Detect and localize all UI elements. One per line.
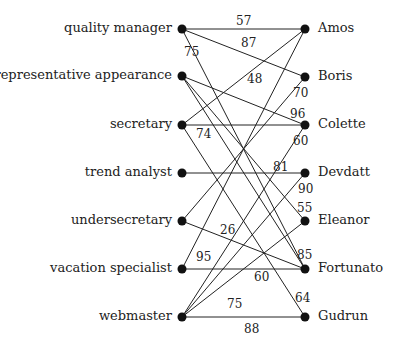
left-node-label: representative appearance — [0, 67, 172, 83]
node-R3 — [301, 169, 310, 178]
left-node-label: trend analyst — [85, 164, 172, 180]
edge-weight: 57 — [236, 14, 251, 28]
left-node-label: webmaster — [99, 308, 172, 324]
node-R4 — [301, 217, 310, 226]
node-R2 — [301, 121, 310, 130]
node-R1 — [301, 73, 310, 82]
edge-weight: 90 — [298, 182, 313, 196]
edge-weight: 81 — [273, 160, 288, 174]
right-node-label: Eleanor — [318, 212, 370, 228]
right-node-label: Colette — [318, 116, 366, 132]
node-L4 — [178, 217, 187, 226]
edge-weight: 60 — [254, 270, 269, 284]
edge-L1-R2 — [182, 76, 305, 125]
node-L0 — [178, 25, 187, 34]
right-node-label: Devdatt — [318, 164, 370, 180]
node-R6 — [301, 313, 310, 322]
right-node-label: Amos — [318, 20, 354, 36]
edge-weight: 96 — [290, 107, 305, 121]
edge-weight: 64 — [295, 291, 310, 305]
edge-weight: 87 — [241, 36, 256, 50]
node-L2 — [178, 121, 187, 130]
edge-weight: 48 — [247, 72, 262, 86]
left-node-label: vacation specialist — [50, 260, 172, 276]
node-R5 — [301, 265, 310, 274]
edge-weight: 88 — [244, 322, 259, 336]
node-L3 — [178, 169, 187, 178]
node-R0 — [301, 25, 310, 34]
edge-weight: 74 — [196, 127, 211, 141]
left-node-label: secretary — [110, 116, 172, 132]
edge-weight: 75 — [227, 297, 242, 311]
edge-weight: 85 — [297, 248, 312, 262]
edge-weight: 70 — [293, 86, 308, 100]
edge-weight: 95 — [196, 250, 211, 264]
right-node-label: Fortunato — [318, 260, 383, 276]
left-node-label: undersecretary — [71, 212, 172, 228]
edge-weight: 55 — [297, 201, 312, 215]
right-node-label: Boris — [318, 68, 352, 84]
edge-weight: 60 — [293, 134, 308, 148]
left-node-label: quality manager — [64, 20, 172, 36]
right-node-label: Gudrun — [318, 308, 368, 324]
node-L5 — [178, 265, 187, 274]
node-L1 — [178, 72, 187, 81]
edge-weight: 26 — [220, 223, 235, 237]
edge-weight: 75 — [184, 45, 199, 59]
node-L6 — [178, 313, 187, 322]
